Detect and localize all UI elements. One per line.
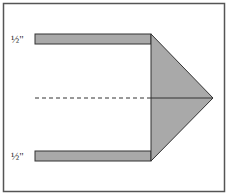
top-strip-label: ½" — [11, 34, 24, 45]
bottom-strip — [35, 151, 151, 161]
bottom-strip-label: ½" — [11, 151, 24, 162]
diagram-canvas — [0, 0, 228, 194]
top-strip — [35, 34, 151, 44]
